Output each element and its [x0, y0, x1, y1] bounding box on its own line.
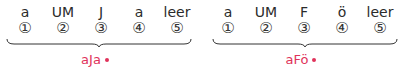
slot-number: ④: [119, 20, 159, 37]
bullet-icon: [312, 58, 316, 62]
brace-icon: [212, 38, 398, 48]
slot-number: ⑤: [157, 20, 197, 37]
slot-letter: a: [119, 4, 159, 20]
slot-number: ②: [43, 20, 83, 37]
diagram-right: a UM F ö leer ① ② ③ ④ ⑤ aFö: [206, 0, 396, 70]
slot-number: ④: [322, 20, 362, 37]
slot-letter: leer: [157, 4, 197, 20]
slot-number: ①: [5, 20, 45, 37]
result-text: aJa: [81, 52, 101, 67]
bullet-icon: [105, 58, 109, 62]
slot-number: ①: [208, 20, 248, 37]
slot-number: ⑤: [360, 20, 400, 37]
slot-letter: a: [208, 4, 248, 20]
brace-icon: [6, 38, 192, 48]
result-text: aFö: [286, 52, 309, 67]
slot-letter: UM: [246, 4, 286, 20]
result-word: aJa: [0, 52, 190, 67]
slot-letter: F: [284, 4, 324, 20]
slot-letter: UM: [43, 4, 83, 20]
slot-number: ③: [284, 20, 324, 37]
slot-letter: ö: [322, 4, 362, 20]
slot-number: ②: [246, 20, 286, 37]
slot-letter: J: [81, 4, 121, 20]
slot-letter: leer: [360, 4, 400, 20]
slot-letter: a: [5, 4, 45, 20]
diagram-left: a UM J a leer ① ② ③ ④ ⑤ aJa: [0, 0, 190, 70]
result-word: aFö: [206, 52, 396, 67]
slot-number: ③: [81, 20, 121, 37]
